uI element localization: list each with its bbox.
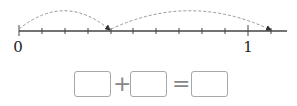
plus-sign: +: [113, 73, 127, 95]
answer-box-1[interactable]: [74, 71, 111, 97]
answer-box-3[interactable]: [191, 71, 228, 97]
answer-box-2[interactable]: [130, 71, 167, 97]
label-zero: 0: [8, 40, 28, 55]
jump-arc-2: [111, 11, 271, 30]
number-line-exercise: 0 1 + =: [0, 0, 297, 106]
jump-arc-1: [19, 11, 110, 30]
equals-sign: =: [172, 73, 186, 95]
label-one: 1: [238, 40, 258, 55]
